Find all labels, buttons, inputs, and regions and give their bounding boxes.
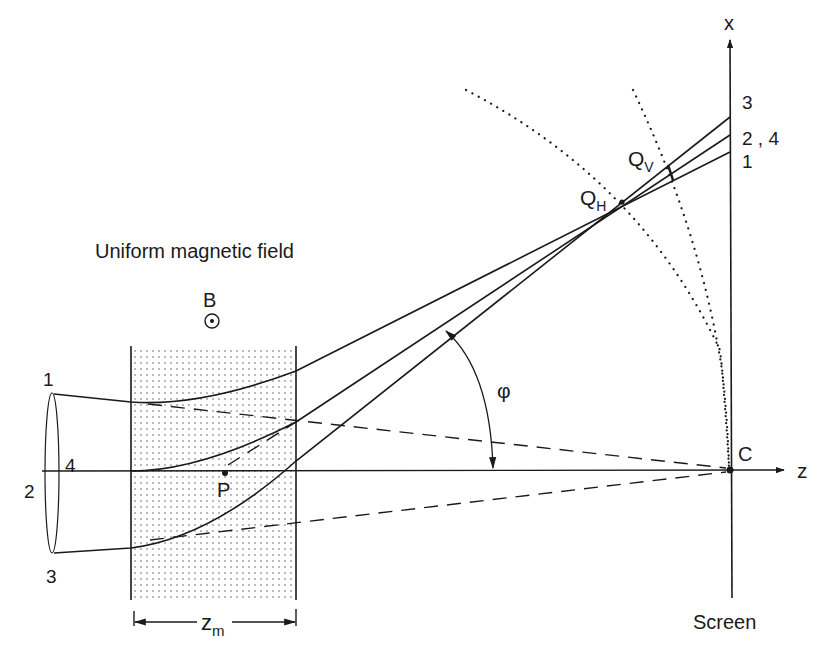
z-axis-label: z (797, 459, 808, 482)
source-ray-2-label: 2 (24, 481, 35, 502)
magnetic-focusing-diagram: zm z x Screen C QH QV φ P B U (0, 0, 829, 647)
focus-h-label: QH (580, 186, 606, 214)
field-title: Uniform magnetic field (95, 240, 294, 262)
angle-phi-arc (446, 331, 493, 468)
focus-h-point (619, 199, 624, 204)
region-width-label: zm (201, 610, 225, 639)
focus-v-label: QV (628, 147, 654, 175)
magnetic-field-region (131, 346, 296, 600)
screen-ray-1-label: 1 (742, 151, 753, 172)
horizontal-focal-arc (466, 90, 729, 468)
screen-ray-3-label: 3 (742, 92, 753, 113)
field-out-of-page-icon (205, 314, 219, 328)
screen-label: Screen (693, 611, 756, 633)
screen-ray-2-4-label: 2 , 4 (742, 128, 779, 149)
x-axis-label: x (724, 12, 734, 34)
region-width-dimension: zm (134, 609, 296, 639)
source-ray-3-label: 3 (46, 566, 57, 587)
origin-label: C (738, 443, 752, 465)
angle-phi-label: φ (497, 379, 511, 402)
source-ray-1-label: 1 (43, 369, 54, 390)
point-p (222, 470, 228, 476)
origin-point-c (727, 467, 734, 474)
field-symbol-label: B (203, 289, 216, 311)
vertical-focal-arc (633, 90, 729, 468)
source-ray-4-label: 4 (65, 455, 76, 476)
source-aperture-ellipse (45, 393, 59, 553)
point-p-label: P (217, 479, 230, 501)
screen-x-axis (730, 40, 732, 598)
